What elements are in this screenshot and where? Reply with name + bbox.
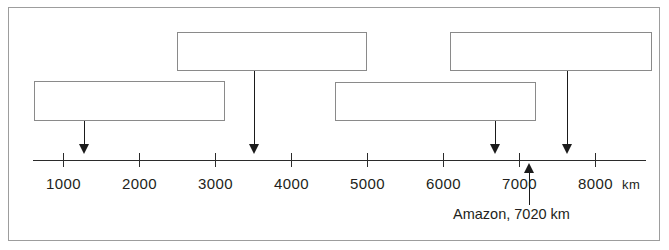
axis-label-3000: 3000 — [192, 175, 239, 192]
number-line-diagram: 1000 2000 3000 4000 5000 6000 7000 8000 … — [9, 8, 661, 242]
amazon-callout-label: Amazon, 7020 km — [453, 206, 570, 222]
axis-tick-7000 — [519, 153, 520, 167]
axis-label-1000: 1000 — [40, 175, 87, 192]
axis-unit-label: km — [622, 177, 640, 192]
marker-arrow-3 — [490, 121, 501, 154]
axis-tick-8000 — [595, 153, 596, 167]
axis-label-4000: 4000 — [268, 175, 315, 192]
axis-tick-4000 — [291, 153, 292, 167]
axis-tick-5000 — [367, 153, 368, 167]
amazon-arrow — [524, 163, 535, 205]
axis-tick-1000 — [63, 153, 64, 167]
axis-label-8000: 8000 — [572, 175, 619, 192]
axis-tick-2000 — [139, 153, 140, 167]
answer-box-2[interactable] — [177, 32, 367, 71]
axis-label-2000: 2000 — [116, 175, 163, 192]
number-line-axis — [33, 160, 646, 161]
marker-arrow-1 — [79, 121, 90, 154]
axis-label-7000: 7000 — [496, 175, 543, 192]
answer-box-4[interactable] — [450, 32, 652, 71]
axis-label-6000: 6000 — [420, 175, 467, 192]
answer-box-3[interactable] — [335, 82, 536, 121]
answer-box-1[interactable] — [34, 81, 225, 121]
axis-tick-6000 — [443, 153, 444, 167]
worksheet-frame: 1000 2000 3000 4000 5000 6000 7000 8000 … — [8, 7, 660, 241]
axis-tick-3000 — [215, 153, 216, 167]
marker-arrow-4 — [562, 71, 573, 154]
marker-arrow-2 — [249, 71, 260, 154]
axis-label-5000: 5000 — [344, 175, 391, 192]
